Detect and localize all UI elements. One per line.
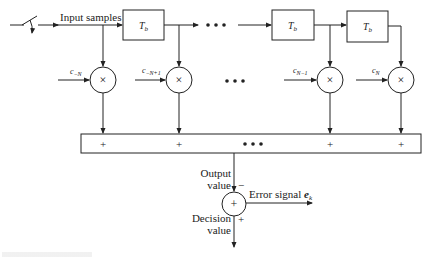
delay-label-2: Tb bbox=[288, 20, 298, 33]
figure-caption-truncated bbox=[2, 252, 92, 257]
delay-label-1: Tb bbox=[139, 20, 149, 33]
minus-sign: − bbox=[238, 179, 244, 191]
output-value-label-2: value bbox=[207, 179, 231, 191]
input-samples-label: Input samples bbox=[60, 11, 121, 23]
ellipsis-bar bbox=[243, 142, 263, 146]
equalizer-diagram: Input samples Tb Tb Tb c−N c−N+1 cN−1 cN… bbox=[0, 0, 434, 260]
plus-icon: + bbox=[327, 138, 333, 150]
coef-label-3: cN−1 bbox=[293, 66, 308, 76]
summation-bar bbox=[81, 134, 421, 153]
decision-value-label-2: value bbox=[207, 224, 231, 236]
plus-sign: + bbox=[238, 213, 244, 225]
plus-icon: + bbox=[100, 138, 106, 150]
multiply-icon: × bbox=[176, 73, 183, 87]
multiply-icon: × bbox=[398, 73, 405, 87]
error-signal-label: Error signal ek bbox=[249, 188, 313, 202]
plus-icon: + bbox=[398, 138, 404, 150]
multiply-icon: × bbox=[100, 73, 107, 87]
coef-label-1: c−N bbox=[70, 67, 83, 77]
delay-label-3: Tb bbox=[363, 21, 373, 34]
decision-value-label: Decision bbox=[192, 212, 232, 224]
sampler-switch-icon bbox=[10, 16, 37, 33]
coef-label-4: cN bbox=[372, 66, 381, 76]
plus-icon: + bbox=[176, 138, 182, 150]
sum-node-plus-icon: + bbox=[231, 197, 238, 211]
output-value-label: Output bbox=[200, 167, 231, 179]
coef-label-2: c−N+1 bbox=[142, 66, 161, 76]
multiply-icon: × bbox=[327, 73, 334, 87]
ellipsis-middle bbox=[225, 79, 245, 83]
ellipsis-top bbox=[206, 23, 226, 27]
